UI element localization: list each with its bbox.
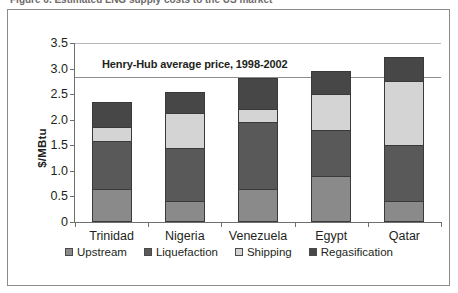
cropped-caption-text: Figure 6. Estimated LNG supply costs to … bbox=[10, 0, 272, 5]
y-tick-label: 0 bbox=[61, 216, 68, 229]
bar-segment-liquefaction[interactable] bbox=[384, 145, 424, 202]
legend-swatch-icon bbox=[309, 248, 317, 256]
legend-item-shipping[interactable]: Shipping bbox=[235, 246, 292, 258]
cropped-caption-sliver: Figure 6. Estimated LNG supply costs to … bbox=[10, 0, 448, 7]
legend-swatch-icon bbox=[235, 248, 243, 256]
legend-item-upstream[interactable]: Upstream bbox=[65, 246, 127, 258]
bar-segment-regasification[interactable] bbox=[165, 92, 205, 114]
bar-segment-shipping[interactable] bbox=[238, 109, 278, 122]
x-tick-mark bbox=[368, 222, 369, 227]
y-tick-mark bbox=[70, 145, 75, 146]
x-axis-label-nigeria: Nigeria bbox=[165, 230, 205, 243]
bar-segment-liquefaction[interactable] bbox=[311, 130, 351, 177]
chart-frame: $/MBtu 00.51.01.52.02.53.03.5 Henry-Hub … bbox=[7, 9, 450, 286]
legend-label: Shipping bbox=[247, 246, 292, 258]
y-tick-label: 2.5 bbox=[51, 88, 68, 101]
legend-label: Liquefaction bbox=[156, 246, 218, 258]
y-tick-label: 1.5 bbox=[51, 139, 68, 152]
y-tick-label: 2.0 bbox=[51, 113, 68, 126]
x-axis-label-venezuela: Venezuela bbox=[229, 230, 287, 243]
bar-nigeria[interactable] bbox=[165, 92, 205, 222]
bar-segment-liquefaction[interactable] bbox=[92, 141, 132, 190]
x-tick-mark bbox=[148, 222, 149, 227]
bar-egypt[interactable] bbox=[311, 71, 351, 222]
plot-area: 00.51.01.52.02.53.03.5 Henry-Hub average… bbox=[74, 43, 441, 223]
y-tick-mark bbox=[70, 196, 75, 197]
legend-label: Regasification bbox=[321, 246, 393, 258]
figure-container: Figure 6. Estimated LNG supply costs to … bbox=[0, 0, 458, 293]
bar-segment-shipping[interactable] bbox=[165, 113, 205, 150]
y-tick-label: 3.0 bbox=[51, 62, 68, 75]
plot-top-rule bbox=[75, 43, 441, 44]
y-tick-label: 0.5 bbox=[51, 190, 68, 203]
x-tick-mark bbox=[295, 222, 296, 227]
y-tick-mark bbox=[70, 43, 75, 44]
legend-item-regasification[interactable]: Regasification bbox=[309, 246, 393, 258]
legend-item-liquefaction[interactable]: Liquefaction bbox=[144, 246, 218, 258]
bar-segment-upstream[interactable] bbox=[238, 189, 278, 222]
bar-segment-shipping[interactable] bbox=[311, 94, 351, 131]
x-tick-mark bbox=[441, 222, 442, 227]
bar-trinidad[interactable] bbox=[92, 102, 132, 222]
y-tick-mark bbox=[70, 94, 75, 95]
bar-segment-liquefaction[interactable] bbox=[238, 122, 278, 191]
x-axis-label-qatar: Qatar bbox=[389, 230, 420, 243]
y-tick-mark bbox=[70, 69, 75, 70]
bar-segment-regasification[interactable] bbox=[311, 71, 351, 95]
bar-segment-upstream[interactable] bbox=[165, 201, 205, 222]
bar-venezuela[interactable] bbox=[238, 78, 278, 222]
bar-segment-liquefaction[interactable] bbox=[165, 148, 205, 201]
bar-segment-regasification[interactable] bbox=[238, 78, 278, 111]
x-tick-mark bbox=[75, 222, 76, 227]
bar-qatar[interactable] bbox=[384, 57, 424, 222]
y-axis-title: $/MBtu bbox=[36, 128, 48, 168]
bar-segment-upstream[interactable] bbox=[92, 189, 132, 222]
legend-swatch-icon bbox=[144, 248, 152, 256]
bar-segment-regasification[interactable] bbox=[92, 102, 132, 128]
y-tick-label: 1.0 bbox=[51, 165, 68, 178]
y-tick-mark bbox=[70, 120, 75, 121]
bar-segment-regasification[interactable] bbox=[384, 57, 424, 82]
bar-segment-shipping[interactable] bbox=[384, 81, 424, 145]
y-tick-label: 3.5 bbox=[51, 37, 68, 50]
chart-legend: UpstreamLiquefactionShippingRegasificati… bbox=[0, 246, 458, 258]
x-tick-mark bbox=[221, 222, 222, 227]
x-axis-label-trinidad: Trinidad bbox=[89, 230, 134, 243]
henry-hub-reference-label: Henry-Hub average price, 1998-2002 bbox=[102, 59, 288, 70]
bar-segment-shipping[interactable] bbox=[92, 127, 132, 142]
x-axis-label-egypt: Egypt bbox=[315, 230, 347, 243]
y-tick-mark bbox=[70, 171, 75, 172]
bar-segment-upstream[interactable] bbox=[384, 201, 424, 222]
bar-segment-upstream[interactable] bbox=[311, 176, 351, 222]
legend-swatch-icon bbox=[65, 248, 73, 256]
legend-label: Upstream bbox=[77, 246, 127, 258]
